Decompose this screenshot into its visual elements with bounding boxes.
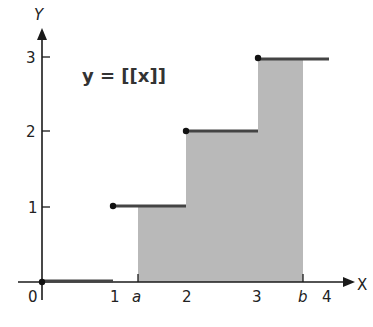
shaded-area [138, 59, 303, 282]
x-tick-4: 4 [322, 288, 332, 306]
x-tick-0: 0 [28, 288, 38, 306]
x-tick-2: 2 [182, 288, 192, 306]
x-axis-label: X [357, 276, 367, 294]
y-tick-3: 3 [26, 49, 36, 67]
x-tick-a: a [132, 288, 141, 306]
x-tick-b: b [298, 288, 308, 306]
equation-label: y = [[x]] [82, 65, 166, 86]
y-tick-2: 2 [26, 123, 36, 141]
y-tick-1: 1 [28, 199, 38, 217]
x-axis-arrow-icon [343, 277, 355, 287]
y-axis-label: Y [34, 6, 45, 24]
x-tick-3: 3 [252, 288, 262, 306]
y-ticks [42, 57, 50, 207]
y-axis-arrow-icon [37, 28, 47, 40]
x-tick-1: 1 [110, 288, 120, 306]
step-function-diagram: Y X 3 2 1 0 1 a 2 3 b 4 y = [[x]] [0, 0, 373, 327]
